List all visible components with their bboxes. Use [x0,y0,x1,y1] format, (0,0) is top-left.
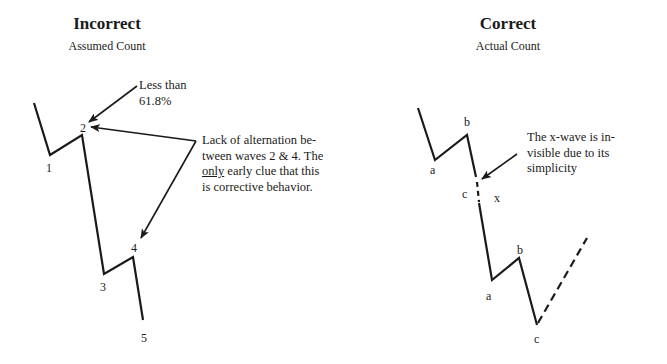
retracement-note-line2: 61.8% [139,94,187,110]
incorrect-title: Incorrect [7,14,207,34]
arrow-to-wave-4 [141,141,196,238]
arrow-retracement [89,86,137,122]
alternation-note-line2: tween waves 2 & 4. The [202,149,337,165]
x-wave-note-line3: simplicity [527,161,627,177]
wave-label-second-c: c [534,333,539,345]
wave-label-x: x [494,192,500,204]
wave-label-first-a: a [430,164,435,176]
alternation-note-line3-rest: early clue that this [224,164,319,178]
correct-title: Correct [408,14,608,34]
arrow-to-x-wave [482,154,517,179]
wave-label-1: 1 [46,162,52,174]
wave-label-2: 2 [80,122,86,134]
wave-label-5: 5 [141,332,147,344]
wave-label-first-b: b [464,116,470,128]
alternation-note: Lack of alternation be- tween waves 2 & … [202,133,337,195]
correct-second-zigzag [479,203,537,325]
wave-label-4: 4 [131,242,137,254]
projected-dashed-line [538,238,587,323]
x-wave-note-line1: The x-wave is in- [527,130,627,146]
alternation-note-line1: Lack of alternation be- [202,133,337,149]
correct-subtitle: Actual Count [408,39,608,54]
wave-label-3: 3 [100,281,106,293]
incorrect-wave-path [34,103,143,320]
x-wave-dashes [477,182,479,202]
incorrect-subtitle: Assumed Count [7,39,207,54]
wave-label-first-c: c [462,188,467,200]
retracement-note-line1: Less than [139,78,187,94]
retracement-note: Less than 61.8% [139,78,187,109]
alternation-note-line4: is corrective behavior. [202,180,337,196]
arrow-to-wave-2 [91,127,196,141]
emphasis-only: only [202,164,224,178]
alternation-note-line3: only early clue that this [202,164,337,180]
x-wave-note: The x-wave is in- visible due to its sim… [527,130,627,177]
x-wave-note-line2: visible due to its [527,146,627,162]
wave-label-second-a: a [486,290,491,302]
wave-label-second-b: b [517,244,523,256]
